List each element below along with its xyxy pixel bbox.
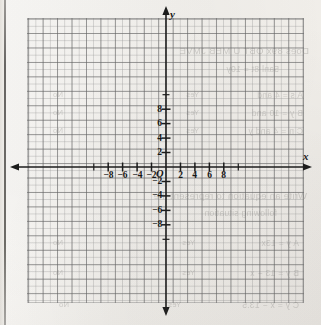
y-axis-arrow-up xyxy=(162,6,169,15)
x-tick-label-2: 2 xyxy=(173,170,188,180)
y-tick-label--8: −8 xyxy=(142,219,162,229)
x-axis-label: x xyxy=(303,150,309,162)
y-tick-label--2: −2 xyxy=(142,176,162,186)
y-tick-label--6: −6 xyxy=(142,205,162,215)
y-tick-label-6: 6 xyxy=(148,118,162,128)
x-tick-label-8: 8 xyxy=(216,170,231,180)
coordinate-axes xyxy=(0,0,321,325)
x-axis-arrow-left xyxy=(10,163,19,170)
y-tick-label-8: 8 xyxy=(148,104,162,114)
y-axis-label: y xyxy=(170,8,175,20)
y-tick-label-2: 2 xyxy=(148,147,162,157)
x-axis-arrow-right xyxy=(303,163,312,170)
x-tick-label-4: 4 xyxy=(187,170,202,180)
y-axis-arrow-down xyxy=(162,307,169,316)
x-tick-label-6: 6 xyxy=(202,170,217,180)
y-tick-label--4: −4 xyxy=(142,190,162,200)
y-tick-label-4: 4 xyxy=(148,133,162,143)
